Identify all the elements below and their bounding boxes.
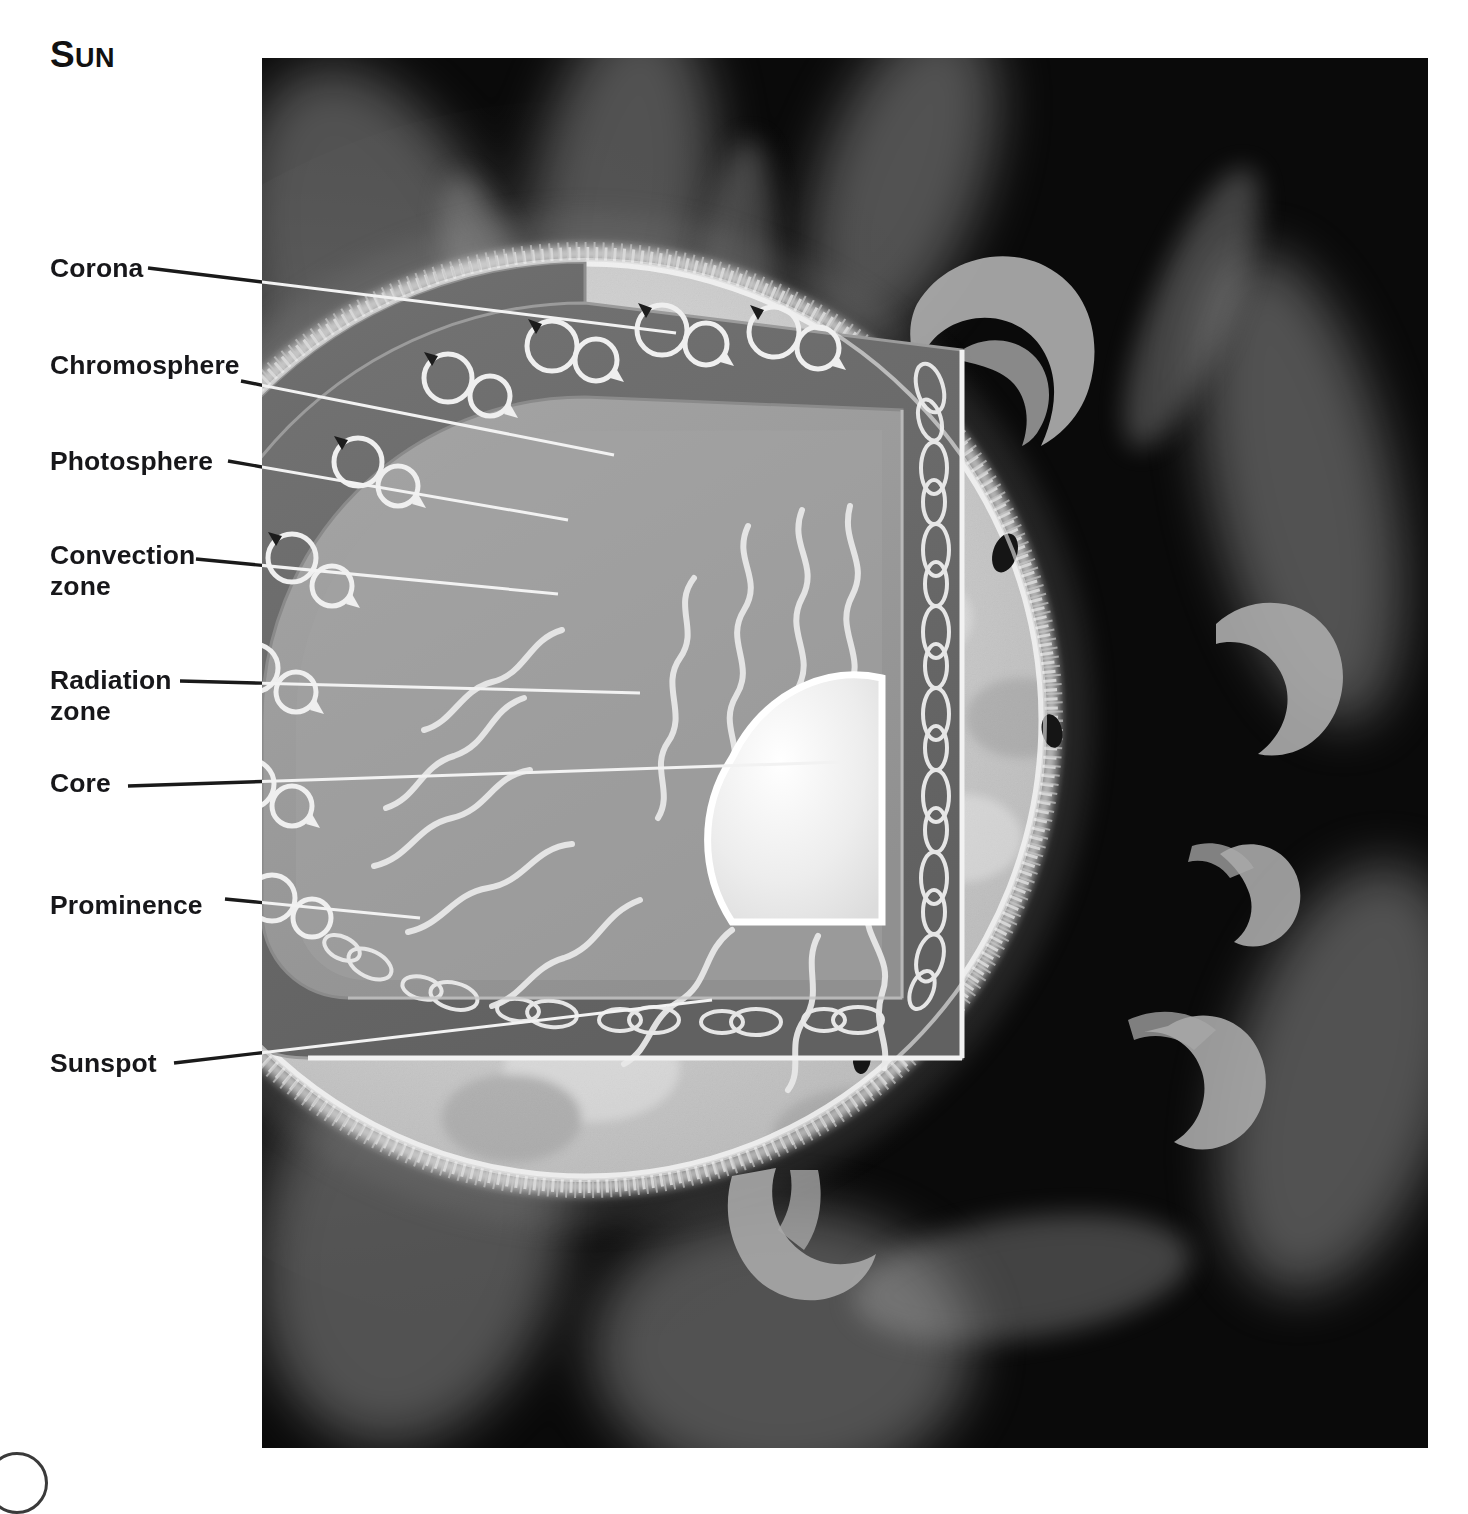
label-radiation: Radiation zone <box>50 665 172 727</box>
label-photosphere: Photosphere <box>50 446 213 477</box>
label-corona: Corona <box>50 253 143 284</box>
label-chromosphere: Chromosphere <box>50 350 240 381</box>
label-prominence: Prominence <box>50 890 203 921</box>
label-convection: Convection zone <box>50 540 195 602</box>
label-sunspot: Sunspot <box>50 1048 157 1079</box>
label-core: Core <box>50 768 111 799</box>
